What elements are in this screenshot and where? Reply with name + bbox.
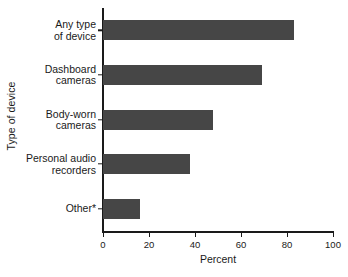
x-axis-tick [287,232,288,237]
bar [103,154,190,174]
y-axis-tick-label: Other* [20,203,96,215]
y-axis-title: Type of device [0,0,22,232]
bar [103,20,294,40]
bar-chart: Type of device Any type of deviceDashboa… [0,0,348,277]
x-axis-tick-label: 40 [190,239,201,250]
y-axis-tick-label: Personal audio recorders [20,153,96,176]
y-axis-tick-labels: Any type of deviceDashboard camerasBody-… [22,8,100,231]
bar [103,65,262,85]
x-axis-tick [103,232,104,237]
x-axis-tick [241,232,242,237]
plot-area: 020406080100 [103,8,333,231]
y-axis-tick [98,74,102,75]
x-axis-spine [102,231,334,233]
y-axis-tick [98,208,102,209]
y-axis-tick-label: Body-worn cameras [20,108,96,131]
x-axis-tick-label: 100 [325,239,341,250]
x-axis-tick [333,232,334,237]
y-axis-tick [98,119,102,120]
x-axis-tick [149,232,150,237]
y-axis-tick [98,163,102,164]
bar [103,110,213,130]
x-axis-tick-label: 0 [100,239,105,250]
y-axis-tick [98,30,102,31]
x-axis-tick [195,232,196,237]
y-axis-title-text: Type of device [5,81,17,150]
bar [103,199,140,219]
x-axis-tick-label: 20 [144,239,155,250]
y-axis-tick-label: Dashboard cameras [20,63,96,86]
x-axis-tick-label: 60 [236,239,247,250]
y-axis-tick-label: Any type of device [20,19,96,42]
x-axis-title: Percent [103,253,333,265]
x-axis-tick-label: 80 [282,239,293,250]
